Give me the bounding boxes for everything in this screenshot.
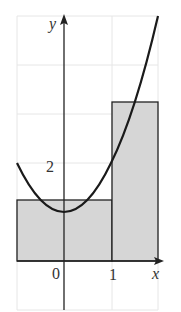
riemann-sum-diagram: y x 0 1 2 [0, 0, 181, 312]
y-tick-label-2: 2 [46, 158, 54, 175]
x-tick-label-1: 1 [109, 266, 117, 283]
origin-label: 0 [52, 265, 60, 282]
rectangles [17, 102, 158, 261]
x-axis-label: x [151, 265, 159, 282]
right-rectangle [112, 102, 158, 261]
y-axis-label: y [47, 15, 57, 33]
